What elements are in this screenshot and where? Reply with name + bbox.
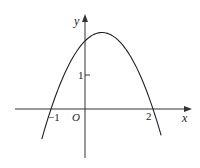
- y-axis-arrow-icon: [82, 14, 88, 22]
- origin-label: O: [72, 111, 80, 123]
- x-tick-label-neg1: −1: [48, 111, 60, 123]
- y-tick-label-1: 1: [78, 69, 84, 81]
- x-axis-label: x: [181, 111, 188, 125]
- parabola-curve: [42, 33, 161, 140]
- y-axis-label: y: [73, 14, 80, 28]
- graph-canvas: y x O −1 2 1: [0, 0, 200, 168]
- function-graph-diagram: y x O −1 2 1: [0, 0, 200, 168]
- x-tick-label-2: 2: [146, 110, 152, 122]
